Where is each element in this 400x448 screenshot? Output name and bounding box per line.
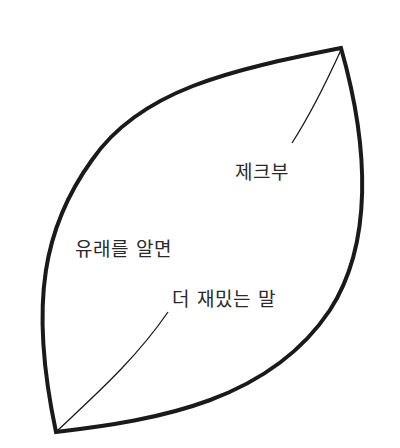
top-label: 제크부 bbox=[235, 157, 289, 184]
top-pointer-line bbox=[292, 50, 341, 143]
main-label-line1: 유래를 알면 bbox=[75, 234, 172, 261]
main-label-line2: 더 재밌는 말 bbox=[172, 284, 276, 311]
bottom-pointer-line bbox=[57, 312, 168, 431]
leaf-diagram bbox=[0, 0, 400, 448]
